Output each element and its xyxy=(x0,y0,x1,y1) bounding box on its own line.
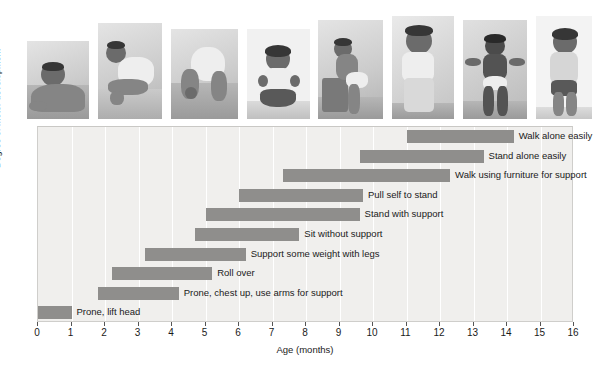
baby-figure xyxy=(258,47,302,115)
x-axis-tick-label: 7 xyxy=(269,327,275,338)
bar-row: Pull self to stand xyxy=(38,186,572,206)
milestone-label: Prone, chest up, use arms for support xyxy=(184,286,343,300)
x-axis-tick-label: 5 xyxy=(202,327,208,338)
x-axis-tick xyxy=(406,322,407,326)
photo-prone-lift-head xyxy=(27,41,89,119)
x-axis-tick-label: 14 xyxy=(500,327,511,338)
milestone-bar[interactable] xyxy=(407,130,514,143)
milestone-bar[interactable] xyxy=(239,189,363,202)
milestone-bar[interactable] xyxy=(283,169,451,182)
bar-row: Prone, lift head xyxy=(38,303,572,323)
x-axis-tick-label: 6 xyxy=(235,327,241,338)
milestone-bar[interactable] xyxy=(195,228,299,241)
milestone-label: Prone, lift head xyxy=(77,305,141,319)
x-axis-tick-label: 15 xyxy=(534,327,545,338)
milestone-bar[interactable] xyxy=(38,306,72,319)
x-axis-tick xyxy=(372,322,373,326)
bar-row: Prone, chest up, use arms for support xyxy=(38,284,572,304)
x-axis-tick-label: 11 xyxy=(400,327,410,338)
x-axis-tick xyxy=(339,322,340,326)
photo-crawling xyxy=(171,29,238,119)
milestone-bar[interactable] xyxy=(360,150,484,163)
x-axis-tick-label: 12 xyxy=(433,327,444,338)
milestone-bar[interactable] xyxy=(206,208,360,221)
chart-bars: Walk alone easilyStand alone easilyWalk … xyxy=(38,127,572,321)
x-axis-tick-label: 9 xyxy=(336,327,342,338)
baby-figure xyxy=(547,30,585,116)
photo-assisted-walking xyxy=(463,20,527,119)
baby-figure xyxy=(31,63,87,119)
bar-row: Walk alone easily xyxy=(38,127,572,147)
milestone-label: Pull self to stand xyxy=(368,188,438,202)
chart-plot-area: Walk alone easilyStand alone easilyWalk … xyxy=(37,126,573,322)
x-axis-tick-label: 10 xyxy=(366,327,377,338)
baby-figure xyxy=(177,43,235,115)
milestone-bar[interactable] xyxy=(112,267,213,280)
milestone-label: Roll over xyxy=(217,266,255,280)
x-axis-tick xyxy=(205,322,206,326)
bar-row: Support some weight with legs xyxy=(38,245,572,265)
bar-row: Stand with support xyxy=(38,205,572,225)
photo-sitting xyxy=(247,29,310,119)
x-axis-tick-label: 1 xyxy=(68,327,74,338)
milestone-label: Support some weight with legs xyxy=(251,247,380,261)
x-axis-tick-label: 2 xyxy=(101,327,107,338)
photo-prone-chest-up xyxy=(98,23,162,119)
x-axis-title: Age (months) xyxy=(0,344,610,355)
milestone-label: Walk using furniture for support xyxy=(455,168,587,182)
x-axis-tick-label: 4 xyxy=(168,327,174,338)
x-axis-tick xyxy=(473,322,474,326)
x-axis-tick-label: 13 xyxy=(467,327,478,338)
infant-photo-strip xyxy=(27,6,592,119)
baby-figure xyxy=(400,28,446,116)
x-axis-tick-label: 8 xyxy=(302,327,308,338)
x-axis-tick xyxy=(238,322,239,326)
x-axis-tick-label: 16 xyxy=(567,327,578,338)
bar-row: Walk using furniture for support xyxy=(38,166,572,186)
x-axis-tick xyxy=(540,322,541,326)
bar-row: Roll over xyxy=(38,264,572,284)
milestone-label: Sit without support xyxy=(304,227,382,241)
x-axis-tick xyxy=(272,322,273,326)
x-axis-tick xyxy=(104,322,105,326)
photo-pull-to-stand xyxy=(318,20,383,119)
x-axis-tick xyxy=(71,322,72,326)
milestone-bar[interactable] xyxy=(145,248,246,261)
x-axis-tick-label: 3 xyxy=(135,327,141,338)
x-axis-tick xyxy=(439,322,440,326)
x-axis-tick xyxy=(138,322,139,326)
bar-row: Sit without support xyxy=(38,225,572,245)
milestone-label: Stand with support xyxy=(365,207,444,221)
milestone-label: Stand alone easily xyxy=(489,149,567,163)
x-axis: 012345678910111213141516 xyxy=(37,322,573,340)
y-axis-title: Degree of motor development xyxy=(0,49,2,168)
baby-figure xyxy=(322,38,380,116)
x-axis-tick-label: 0 xyxy=(34,327,40,338)
photo-walking-alone xyxy=(536,16,592,119)
x-axis-tick xyxy=(171,322,172,326)
photo-cruising xyxy=(392,16,454,119)
milestone-bar[interactable] xyxy=(98,287,178,300)
bar-row: Stand alone easily xyxy=(38,147,572,167)
baby-figure xyxy=(475,36,517,116)
x-axis-tick xyxy=(573,322,574,326)
x-axis-tick xyxy=(37,322,38,326)
x-axis-tick xyxy=(506,322,507,326)
x-axis-tick xyxy=(305,322,306,326)
baby-figure xyxy=(104,39,160,113)
milestone-label: Walk alone easily xyxy=(519,129,593,143)
gridline xyxy=(574,127,575,321)
